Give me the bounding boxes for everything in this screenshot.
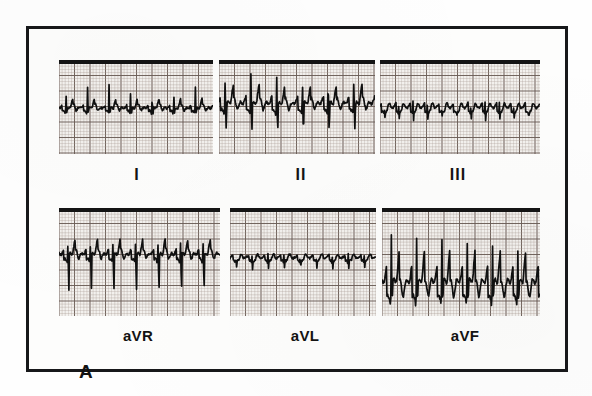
lead-label-lead-avr: aVR (108, 327, 168, 344)
lead-label-lead-iii: III (428, 166, 488, 184)
ecg-strip-lead-iii (380, 60, 540, 154)
ecg-paper-top-edge (59, 60, 213, 64)
ecg-strip-lead-avf (382, 208, 540, 316)
ecg-paper-top-edge (59, 208, 220, 212)
figure-border-frame: IIIIIIaVRaVLaVF A (26, 26, 568, 372)
ecg-paper-top-edge (382, 208, 540, 212)
ecg-paper-top-edge (219, 60, 375, 64)
ecg-strip-lead-ii (219, 60, 375, 154)
panel-letter-label: A (79, 361, 93, 383)
lead-label-lead-avl: aVL (275, 327, 335, 344)
ecg-paper-top-edge (230, 208, 376, 212)
lead-label-lead-avf: aVF (435, 327, 495, 344)
ecg-strip-lead-i (59, 60, 213, 154)
ecg-strip-lead-avr (59, 208, 220, 316)
ecg-figure-root: IIIIIIaVRaVLaVF A (0, 0, 592, 396)
ecg-strip-lead-avl (230, 208, 376, 316)
lead-label-lead-i: I (107, 166, 167, 184)
lead-label-lead-ii: II (271, 166, 331, 184)
ecg-paper-top-edge (380, 60, 540, 64)
